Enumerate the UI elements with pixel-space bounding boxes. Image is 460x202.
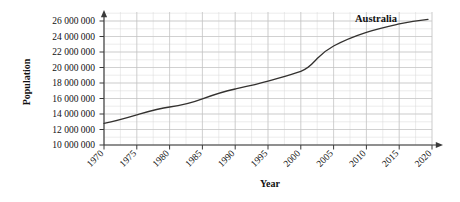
- y-tick-label: 14 000 000: [52, 109, 95, 119]
- x-axis-arrow: [436, 142, 443, 148]
- y-tick-label: 10 000 000: [52, 140, 95, 150]
- x-axis-title: Year: [260, 178, 281, 189]
- x-tick-label: 2010: [347, 148, 368, 169]
- y-tick-label: 24 000 000: [52, 32, 95, 42]
- population-line-chart: 10 000 000 12 000 000 14 000 000 16 000 …: [0, 0, 460, 202]
- x-tick-label: 1990: [216, 148, 237, 169]
- chart-figure: 10 000 000 12 000 000 14 000 000 16 000 …: [0, 0, 460, 202]
- y-tick-label: 16 000 000: [52, 94, 95, 104]
- x-tick-label: 2015: [380, 148, 401, 169]
- x-tick-label: 2005: [315, 148, 336, 169]
- y-tick-label: 20 000 000: [52, 63, 95, 73]
- y-tick-label: 12 000 000: [52, 125, 95, 135]
- y-tick-labels: 10 000 000 12 000 000 14 000 000 16 000 …: [52, 16, 95, 150]
- y-axis-title: Population: [21, 58, 32, 105]
- x-tick-label: 1980: [151, 148, 172, 169]
- series-annotation-australia: Australia: [355, 13, 398, 24]
- x-tick-label: 2000: [282, 148, 303, 169]
- y-tick-label: 26 000 000: [52, 16, 95, 26]
- x-tick-label: 1985: [183, 148, 204, 169]
- x-tick-label: 2020: [413, 148, 434, 169]
- y-tick-label: 18 000 000: [52, 78, 95, 88]
- x-tick-labels: 1970 1975 1980 1985 1990 1995 2000 2005 …: [85, 148, 434, 169]
- series-line-australia: [104, 19, 428, 123]
- x-tick-label: 1995: [249, 148, 270, 169]
- y-axis: [100, 10, 108, 145]
- x-tick-label: 1975: [118, 148, 139, 169]
- y-tick-label: 22 000 000: [52, 47, 95, 57]
- x-tick-label: 1970: [85, 148, 106, 169]
- y-axis-arrow: [101, 10, 107, 17]
